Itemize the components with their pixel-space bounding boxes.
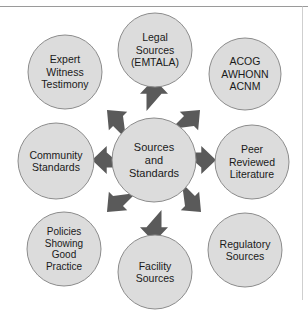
node-label: FacilitySources — [136, 260, 175, 284]
node-label-line: Community — [29, 149, 83, 161]
node-sources-and-standards[interactable]: SourcesandStandards — [112, 118, 196, 202]
node-label-line: Peer — [241, 143, 264, 155]
sources-and-standards-diagram: LegalSources(EMTALA)ACOGAWHONNACNMPeerRe… — [0, 0, 308, 317]
node-label-line: Regulatory — [220, 238, 272, 250]
node-expert-witness-testimony[interactable]: ExpertWitnessTestimony — [28, 35, 102, 109]
node-label-line: Sources — [134, 141, 175, 153]
node-acog-awhonn-acnm[interactable]: ACOGAWHONNACNM — [209, 38, 281, 110]
node-label-line: Facility — [139, 260, 172, 272]
node-label-line: Expert — [50, 53, 80, 65]
node-label-line: ACNM — [230, 80, 261, 92]
node-peer-reviewed-literature[interactable]: PeerReviewedLiterature — [215, 125, 289, 199]
node-label: RegulatorySources — [220, 238, 272, 262]
node-label-line: Literature — [230, 168, 275, 180]
node-label: CommunityStandards — [29, 149, 83, 173]
node-label-line: Testimony — [41, 78, 89, 90]
node-community-standards[interactable]: CommunityStandards — [18, 123, 94, 199]
node-label-line: Standards — [129, 167, 180, 179]
node-policies-showing-good-practice[interactable]: PoliciesShowingGoodPractice — [27, 212, 101, 286]
node-label-line: Good — [52, 249, 76, 260]
node-label-line: (EMTALA) — [131, 56, 179, 68]
node-label-line: Sources — [136, 44, 175, 56]
node-facility-sources[interactable]: FacilitySources — [118, 235, 192, 309]
node-layer: LegalSources(EMTALA)ACOGAWHONNACNMPeerRe… — [18, 13, 289, 309]
node-label-line: and — [145, 154, 163, 166]
node-label-line: Policies — [47, 226, 81, 237]
node-label-line: Sources — [136, 272, 175, 284]
diagram-canvas: LegalSources(EMTALA)ACOGAWHONNACNMPeerRe… — [0, 0, 308, 317]
node-label-line: Witness — [46, 66, 83, 78]
node-label-line: Standards — [32, 161, 80, 173]
node-legal-sources[interactable]: LegalSources(EMTALA) — [118, 13, 192, 87]
node-label-line: Showing — [45, 238, 83, 249]
node-label-line: Sources — [226, 250, 265, 262]
node-regulatory-sources[interactable]: RegulatorySources — [208, 213, 282, 287]
node-label-line: AWHONN — [221, 68, 268, 80]
node-label-line: ACOG — [230, 55, 261, 67]
node-label-line: Reviewed — [229, 156, 275, 168]
node-label-line: Legal — [142, 31, 168, 43]
node-label-line: Practice — [46, 261, 83, 272]
